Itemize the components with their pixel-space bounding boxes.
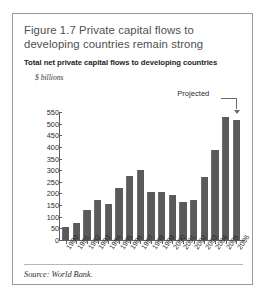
y-axis-tick-label: 250 (37, 177, 59, 186)
source-divider (24, 264, 243, 265)
y-axis-tick-mark (59, 182, 62, 183)
y-axis-tick-mark (59, 240, 62, 241)
y-axis-tick-label: 0 (37, 236, 59, 245)
y-axis-tick-label: 300 (37, 166, 59, 175)
y-axis-tick-mark (59, 124, 62, 125)
y-axis-tick-label: 350 (37, 154, 59, 163)
bar-1997 (137, 170, 144, 240)
bar-2006 (233, 120, 240, 240)
projected-leader-line-horizontal (221, 98, 236, 99)
y-axis-tick-mark (59, 193, 62, 194)
bar-1996 (126, 176, 133, 240)
y-axis-tick-label: 100 (37, 212, 59, 221)
y-axis-unit-label: $ billions (35, 73, 63, 82)
figure-subtitle: Total net private capital flows to devel… (24, 58, 244, 68)
y-axis-tick-label: 50 (37, 224, 59, 233)
y-axis-tick-mark (59, 112, 62, 113)
figure-inner: Figure 1.7 Private capital flows to deve… (13, 14, 252, 284)
projected-arrow-icon (234, 110, 240, 114)
bar-2005 (222, 117, 229, 240)
y-axis-tick-mark (59, 159, 62, 160)
figure-container: Figure 1.7 Private capital flows to deve… (12, 13, 253, 285)
y-axis-tick-label: 450 (37, 131, 59, 140)
y-axis-tick-label: 150 (37, 201, 59, 210)
y-axis-tick-label: 500 (37, 119, 59, 128)
y-axis-tick-mark (59, 170, 62, 171)
projected-annotation-label: Projected (177, 89, 209, 98)
chart-plot-area: $ billions 05010015020025030035040045050… (13, 72, 252, 254)
y-axis-tick-mark (59, 147, 62, 148)
source-note: Source: World Bank. (24, 270, 93, 279)
projected-leader-line-vertical (236, 98, 237, 109)
y-axis-tick-mark (59, 217, 62, 218)
y-axis-tick-label: 400 (37, 142, 59, 151)
y-axis-tick-label: 200 (37, 189, 59, 198)
figure-title: Figure 1.7 Private capital flows to deve… (24, 23, 242, 51)
bar-2004 (211, 150, 218, 240)
y-axis-tick-label: 550 (37, 108, 59, 117)
y-axis-tick-mark (59, 205, 62, 206)
y-axis-line (59, 112, 60, 241)
y-axis-tick-mark (59, 135, 62, 136)
bar-2003 (201, 177, 208, 240)
